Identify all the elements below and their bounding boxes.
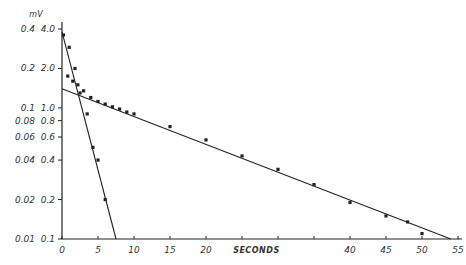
x-tick-label: 15 xyxy=(164,245,176,255)
y-tick-label-inner: 0.2 xyxy=(41,195,56,205)
data-point xyxy=(132,112,135,115)
y-tick-label-outer: 0.4 xyxy=(21,24,36,34)
data-point xyxy=(96,158,99,161)
data-point xyxy=(104,198,107,201)
y-tick-label-outer: 0.02 xyxy=(15,195,35,205)
y-tick-label-inner: 2.0 xyxy=(41,63,56,73)
data-points xyxy=(62,33,424,235)
data-point xyxy=(78,91,81,94)
y-tick-label-inner: 1.0 xyxy=(41,103,56,113)
data-point xyxy=(66,74,69,77)
x-tick-label: 40 xyxy=(344,245,356,255)
y-tick-label-outer: 0.1 xyxy=(21,103,35,113)
data-point xyxy=(348,201,351,204)
data-point xyxy=(73,67,76,70)
data-point xyxy=(91,146,94,149)
data-point xyxy=(111,105,114,108)
data-point xyxy=(71,80,74,83)
data-point xyxy=(68,46,71,49)
data-point xyxy=(125,110,128,113)
y-tick-label-outer: 0.2 xyxy=(21,63,36,73)
data-point xyxy=(384,214,387,217)
axes xyxy=(58,22,462,239)
fitted-line xyxy=(62,32,116,239)
x-axis-title: SECONDS xyxy=(233,246,280,255)
y-tick-label-inner: 4.0 xyxy=(41,24,56,34)
data-point xyxy=(312,183,315,186)
y-tick-label-outer: 0.08 xyxy=(15,116,35,126)
x-tick-label: 50 xyxy=(416,245,428,255)
fitted-line xyxy=(62,89,451,239)
data-point xyxy=(420,232,423,235)
y-tick-label-inner: 0.4 xyxy=(41,155,56,165)
data-point xyxy=(406,220,409,223)
y-unit-label: mV xyxy=(29,10,43,19)
data-point xyxy=(204,138,207,141)
y-tick-label-outer: 0.06 xyxy=(15,132,35,142)
data-point xyxy=(86,112,89,115)
data-point xyxy=(76,83,79,86)
data-point xyxy=(168,125,171,128)
data-point xyxy=(118,107,121,110)
data-point xyxy=(82,89,85,92)
y-tick-label-inner: 0.8 xyxy=(41,116,56,126)
x-tick-label: 5 xyxy=(95,245,101,255)
data-point xyxy=(96,100,99,103)
data-point xyxy=(240,154,243,157)
x-tick-label: 45 xyxy=(380,245,392,255)
data-point xyxy=(89,96,92,99)
x-tick-label: 55 xyxy=(452,245,464,255)
y-tick-label-outer: 0.04 xyxy=(15,155,35,165)
y-tick-label-outer: 0.01 xyxy=(15,234,35,244)
fitted-lines xyxy=(62,32,451,239)
x-tick-label: 20 xyxy=(200,245,212,255)
data-point xyxy=(104,102,107,105)
chart: 4.00.42.00.21.00.10.80.080.60.060.40.040… xyxy=(0,0,466,265)
y-tick-label-inner: 0.1 xyxy=(41,234,55,244)
x-tick-label: 10 xyxy=(128,245,140,255)
y-tick-label-inner: 0.6 xyxy=(41,132,56,142)
data-point xyxy=(62,33,65,36)
x-tick-label: 0 xyxy=(59,245,65,255)
data-point xyxy=(276,168,279,171)
